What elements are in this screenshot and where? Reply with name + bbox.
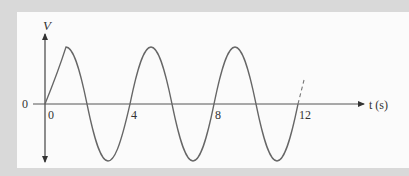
origin-label: 0 (22, 97, 28, 111)
x-tick-4: 4 (131, 108, 137, 122)
t-axis-label: t (s) (369, 98, 388, 112)
x-tick-0: 0 (48, 108, 54, 122)
v-axis-label: V (43, 18, 53, 33)
x-tick-8: 8 (215, 108, 221, 122)
x-tick-12: 12 (299, 108, 311, 122)
dashed-continuation (298, 80, 304, 104)
